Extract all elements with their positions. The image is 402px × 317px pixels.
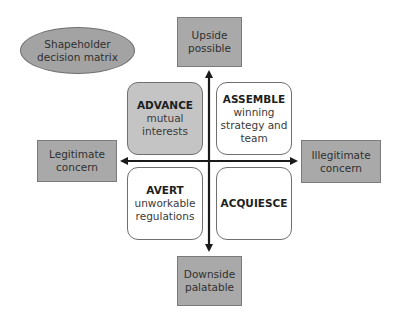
quadrant-assemble: ASSEMBLE winning strategy and team — [216, 82, 292, 155]
axis-label-left: Legitimate concern — [37, 140, 117, 182]
axis-label-right: Illegitimate concern — [301, 140, 381, 183]
axis-right-line-1: Illegitimate — [311, 149, 370, 162]
axis-left-line-1: Legitimate — [49, 148, 105, 161]
quadrant-assemble-line-2: strategy and — [221, 119, 288, 132]
axis-left-line-2: concern — [56, 161, 98, 174]
quadrant-assemble-line-1: winning — [233, 106, 274, 119]
quadrant-acquiesce-title: ACQUIESCE — [221, 197, 288, 210]
quadrant-avert: AVERT unworkable regulations — [127, 167, 203, 240]
quadrant-advance-line-2: interests — [142, 125, 188, 138]
axis-label-top: Upside possible — [177, 17, 242, 67]
quadrant-avert-title: AVERT — [146, 184, 184, 197]
quadrant-assemble-line-3: team — [240, 132, 267, 145]
title-line-2: decision matrix — [37, 51, 118, 64]
axis-bottom-line-1: Downside — [184, 268, 235, 281]
quadrant-acquiesce: ACQUIESCE — [216, 167, 292, 240]
quadrant-advance: ADVANCE mutual interests — [127, 82, 203, 155]
axis-top-line-1: Upside — [192, 29, 228, 42]
axis-top-line-2: possible — [188, 42, 231, 55]
quadrant-advance-title: ADVANCE — [137, 99, 193, 112]
quadrant-avert-line-1: unworkable — [134, 197, 195, 210]
quadrant-advance-line-1: mutual — [146, 112, 183, 125]
diagram-title-ellipse: Shapeholder decision matrix — [20, 27, 135, 74]
title-line-1: Shapeholder — [44, 38, 110, 51]
quadrant-avert-line-2: regulations — [136, 210, 195, 223]
axis-right-line-2: concern — [320, 162, 362, 175]
axis-label-bottom: Downside palatable — [177, 256, 242, 306]
axis-bottom-line-2: palatable — [185, 281, 234, 294]
quadrant-assemble-title: ASSEMBLE — [223, 93, 285, 106]
